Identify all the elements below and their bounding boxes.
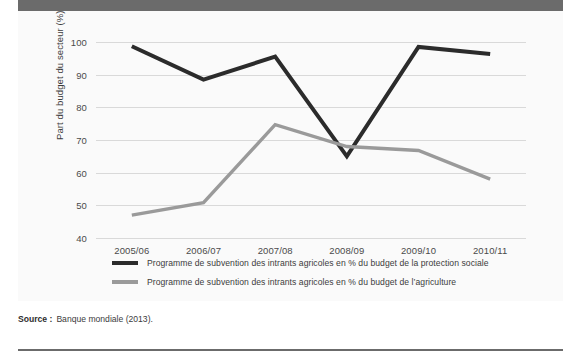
bottom-rule xyxy=(18,349,563,351)
y-tick-label: 80 xyxy=(76,102,87,113)
series-line xyxy=(132,46,490,156)
y-tick-label: 90 xyxy=(76,69,87,80)
legend-swatch-icon xyxy=(112,280,138,284)
series-line xyxy=(132,125,490,215)
legend-label: Programme de subvention des intrants agr… xyxy=(147,258,489,268)
legend-item[interactable]: Programme de subvention des intrants agr… xyxy=(112,272,532,291)
y-tick-label: 50 xyxy=(76,200,87,211)
legend-item[interactable]: Programme de subvention des intrants agr… xyxy=(112,253,532,272)
series-layer xyxy=(96,42,526,238)
y-tick-label: 70 xyxy=(76,135,87,146)
y-axis-title: Part du budget du secteur (%) xyxy=(54,10,65,140)
y-tick-label: 60 xyxy=(76,167,87,178)
top-banner xyxy=(18,0,563,11)
source-label: Source : xyxy=(18,314,52,324)
figure-page: Part du budget du secteur (%) 4050607080… xyxy=(0,0,563,358)
plot-area: 405060708090100 2005/062006/072007/08200… xyxy=(96,42,526,238)
gridline xyxy=(96,238,526,239)
y-tick-label: 40 xyxy=(76,233,87,244)
legend-label: Programme de subvention des intrants agr… xyxy=(147,277,456,287)
y-tick-label: 100 xyxy=(71,37,87,48)
source-text: Banque mondiale (2013). xyxy=(56,314,153,324)
legend-swatch-icon xyxy=(112,261,138,265)
chart-legend: Programme de subvention des intrants agr… xyxy=(112,253,532,291)
source-line: Source : Banque mondiale (2013). xyxy=(18,314,153,324)
